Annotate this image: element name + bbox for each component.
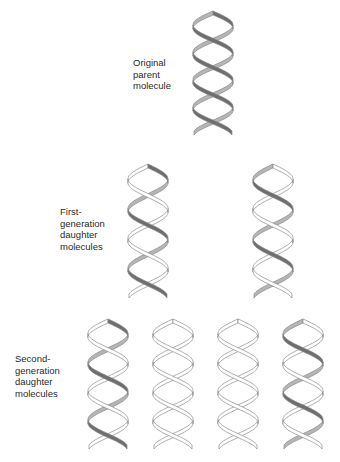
new-strand-segment xyxy=(238,319,258,338)
new-strand-segment xyxy=(153,362,193,395)
label-line: daughter xyxy=(15,376,60,388)
parental-strand-segment xyxy=(193,11,213,29)
dna-molecule-gen2-3 xyxy=(215,313,261,451)
parental-strand-segment xyxy=(253,164,273,183)
parental-strand-segment xyxy=(253,179,293,212)
dna-molecule-gen1-left xyxy=(125,158,171,300)
label-line: generation xyxy=(60,218,105,230)
new-strand-segment xyxy=(153,391,193,423)
label-line: parent xyxy=(133,69,171,81)
new-strand-segment xyxy=(88,391,128,423)
label-original-parent: Original parent molecule xyxy=(133,57,171,92)
dna-molecule-gen1-right xyxy=(250,158,296,300)
parental-strand-segment xyxy=(193,80,233,111)
double-helix-icon xyxy=(250,158,296,300)
new-strand-segment xyxy=(153,334,193,366)
label-line: generation xyxy=(15,365,60,377)
new-strand-segment xyxy=(273,164,293,183)
label-line: molecule xyxy=(133,80,171,92)
new-strand-segment xyxy=(303,319,323,338)
double-helix-icon xyxy=(150,313,196,451)
new-strand-segment xyxy=(128,164,148,183)
parental-strand-segment xyxy=(88,362,128,395)
parental-strand-segment xyxy=(253,239,293,272)
dna-molecule-gen2-4 xyxy=(280,313,326,451)
parental-strand-segment xyxy=(283,391,323,423)
new-strand-segment xyxy=(218,334,258,366)
parental-strand-segment xyxy=(193,52,233,84)
new-strand-segment xyxy=(153,319,173,338)
double-helix-icon xyxy=(125,158,171,300)
new-strand-segment xyxy=(218,391,258,423)
label-line: Second- xyxy=(15,353,60,365)
new-strand-segment xyxy=(88,334,128,366)
double-helix-icon xyxy=(85,313,131,451)
parental-strand-segment xyxy=(128,208,168,242)
new-strand-segment xyxy=(128,239,168,272)
double-helix-icon xyxy=(215,313,261,451)
parental-strand-segment xyxy=(148,164,168,183)
parental-strand-segment xyxy=(213,11,233,29)
label-line: Original xyxy=(133,57,171,69)
dna-molecule-gen2-1 xyxy=(85,313,131,451)
label-second-generation: Second- generation daughter molecules xyxy=(15,353,60,399)
new-strand-segment xyxy=(128,179,168,212)
dna-molecule-parent xyxy=(190,5,236,137)
label-line: molecules xyxy=(15,388,60,400)
label-first-generation: First- generation daughter molecules xyxy=(60,206,105,252)
new-strand-segment xyxy=(218,319,238,338)
double-helix-icon xyxy=(190,5,236,137)
new-strand-segment xyxy=(283,362,323,395)
parental-strand-segment xyxy=(283,319,303,338)
new-strand-segment xyxy=(253,208,293,242)
new-strand-segment xyxy=(218,362,258,395)
label-line: molecules xyxy=(60,241,105,253)
dna-molecule-gen2-2 xyxy=(150,313,196,451)
double-helix-icon xyxy=(280,313,326,451)
label-line: First- xyxy=(60,206,105,218)
parental-strand-segment xyxy=(283,334,323,366)
label-line: daughter xyxy=(60,229,105,241)
new-strand-segment xyxy=(173,319,193,338)
parental-strand-segment xyxy=(193,25,233,56)
parental-strand-segment xyxy=(108,319,128,338)
new-strand-segment xyxy=(88,319,108,338)
